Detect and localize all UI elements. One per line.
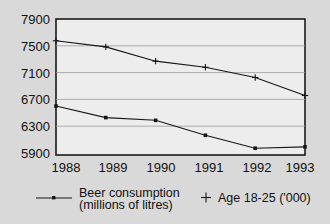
ytick-label-6700: 6700 xyxy=(21,92,50,107)
ytick-label-7100: 7100 xyxy=(21,66,50,81)
data-point-marker-dot-icon xyxy=(154,119,158,123)
data-point-marker-dot-icon xyxy=(54,104,58,108)
legend-label-beer-line2: (millions of litres) xyxy=(79,198,173,212)
ytick-label-7500: 7500 xyxy=(21,39,50,54)
data-point-marker-dot-icon xyxy=(204,133,208,137)
data-point-marker-dot-icon xyxy=(104,116,108,120)
data-point-marker-dot-icon xyxy=(303,145,307,149)
ytick-label-7900: 7900 xyxy=(21,12,50,27)
xtick-label-1988: 1988 xyxy=(52,160,81,175)
data-point-marker-dot-icon xyxy=(253,146,257,150)
xtick-label-1991: 1991 xyxy=(195,160,224,175)
xtick-label-1992: 1992 xyxy=(243,160,272,175)
legend-label-age: Age 18-25 ('000) xyxy=(218,191,311,205)
legend-marker-dot-icon xyxy=(52,196,55,199)
line-chart: 7900 7500 7100 6700 6300 5900 1988 1989 … xyxy=(0,0,330,224)
ytick-label-6300: 6300 xyxy=(21,119,50,134)
xtick-label-1993: 1993 xyxy=(286,160,315,175)
xtick-label-1990: 1990 xyxy=(147,160,176,175)
ytick-label-5900: 5900 xyxy=(21,146,50,161)
chart-figure: 7900 7500 7100 6700 6300 5900 1988 1989 … xyxy=(0,0,330,224)
plot-area xyxy=(56,19,305,155)
xtick-label-1989: 1989 xyxy=(99,160,128,175)
